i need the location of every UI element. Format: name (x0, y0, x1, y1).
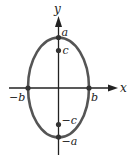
x-axis-label: x (120, 81, 127, 95)
label-neg-c: −c (62, 114, 77, 127)
y-axis-label: y (53, 2, 61, 16)
point-b (86, 85, 91, 90)
point-neg-c (56, 122, 61, 127)
x-axis-arrow-icon (108, 85, 118, 92)
label-neg-b: −b (9, 91, 25, 104)
label-b: b (91, 91, 98, 104)
point-c (56, 48, 61, 53)
label-c: c (63, 44, 69, 57)
ellipse-diagram: x y a c −c −a b −b (0, 0, 131, 166)
label-neg-a: −a (62, 135, 78, 148)
point-neg-b (25, 85, 30, 90)
point-neg-a (56, 134, 61, 139)
point-a (56, 35, 61, 40)
label-a: a (62, 26, 69, 39)
